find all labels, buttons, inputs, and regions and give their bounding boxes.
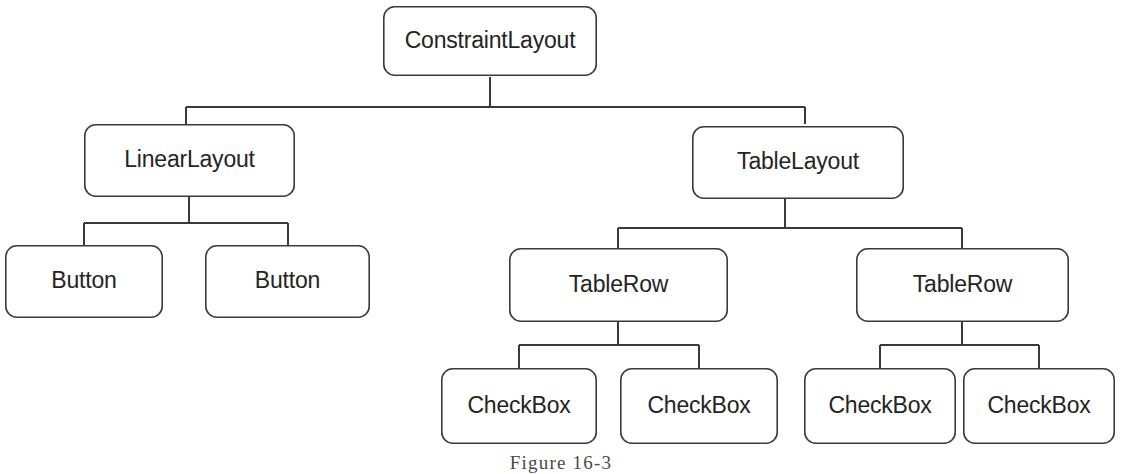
node-label-checkbox-1: CheckBox	[467, 394, 570, 419]
node-label-checkbox-2: CheckBox	[647, 394, 750, 419]
connector-layer	[84, 77, 1039, 368]
node-checkbox-1: CheckBox	[441, 368, 597, 444]
node-label-button-1: Button	[51, 269, 116, 294]
node-tablerow-2: TableRow	[856, 248, 1069, 322]
node-label-checkbox-4: CheckBox	[987, 394, 1090, 419]
connector-root-stem	[186, 77, 805, 124]
connector-table-stem	[618, 199, 962, 248]
connector-row2-stem	[880, 322, 1039, 368]
figure-caption: Figure 16-3	[0, 452, 1122, 474]
node-linearlayout: LinearLayout	[84, 124, 295, 197]
node-button-1: Button	[5, 245, 163, 318]
node-tablerow-1: TableRow	[509, 248, 728, 322]
view-hierarchy-diagram: ConstraintLayoutLinearLayoutTableLayoutB…	[0, 0, 1122, 474]
node-label-tablelayout: TableLayout	[737, 150, 859, 175]
node-label-button-2: Button	[255, 269, 320, 294]
connector-linear-stem	[84, 197, 288, 245]
node-label-linearlayout: LinearLayout	[124, 148, 255, 173]
node-label-tablerow-2: TableRow	[913, 273, 1012, 298]
node-tablelayout: TableLayout	[692, 126, 904, 199]
node-checkbox-2: CheckBox	[620, 368, 778, 444]
node-checkbox-3: CheckBox	[804, 368, 956, 444]
node-checkbox-4: CheckBox	[963, 368, 1115, 444]
node-constraintlayout: ConstraintLayout	[383, 6, 597, 76]
node-label-tablerow-1: TableRow	[569, 273, 668, 298]
node-label-constraintlayout: ConstraintLayout	[405, 29, 576, 54]
node-button-2: Button	[205, 245, 370, 318]
node-label-checkbox-3: CheckBox	[828, 394, 931, 419]
connector-row1-stem	[519, 322, 699, 368]
